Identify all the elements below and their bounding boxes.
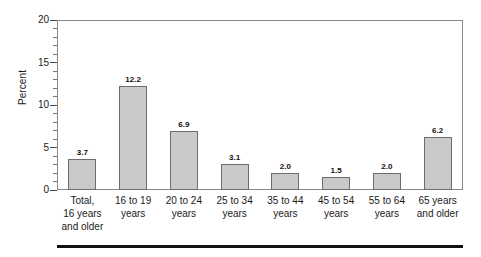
y-axis-tick-label: 0 (23, 185, 49, 195)
bar (322, 177, 350, 190)
x-axis-label-line: 20 to 24 (159, 194, 210, 207)
bar-group: 2.0 (362, 20, 413, 190)
x-axis-label-line: 35 to 44 (260, 194, 311, 207)
y-axis-tick-label: 20 (23, 15, 49, 25)
x-axis-label-line: and older (57, 220, 108, 233)
bar (221, 164, 249, 190)
y-axis-tick-label: 10 (23, 100, 49, 110)
y-axis-tick-major (50, 20, 57, 21)
x-axis-label-line: 16 years (57, 207, 108, 220)
y-axis-tick-label: 15 (23, 58, 49, 68)
y-axis-tick-major (50, 147, 57, 148)
bar-value-label: 6.9 (178, 120, 189, 129)
x-axis-category-label: 45 to 54years (311, 194, 362, 220)
x-axis-category-label: Total,16 yearsand older (57, 194, 108, 233)
bar (424, 137, 452, 190)
bar-group: 3.1 (209, 20, 260, 190)
x-axis-category-label: 20 to 24years (159, 194, 210, 220)
x-axis-label-line: Total, (57, 194, 108, 207)
bar (271, 173, 299, 190)
bar-group: 1.5 (311, 20, 362, 190)
x-axis-category-label: 16 to 19years (108, 194, 159, 220)
bar-group: 6.9 (159, 20, 210, 190)
x-axis-label-line: 45 to 54 (311, 194, 362, 207)
x-axis-label-line: 16 to 19 (108, 194, 159, 207)
bar-value-label: 3.1 (229, 153, 240, 162)
x-axis-label-line: years (159, 207, 210, 220)
x-axis-label-line: years (311, 207, 362, 220)
bar-value-label: 2.0 (381, 162, 392, 171)
x-axis-label-line: years (209, 207, 260, 220)
bar-group: 2.0 (260, 20, 311, 190)
y-axis-tick-major (50, 190, 57, 191)
bar (68, 159, 96, 190)
x-axis-category-label: 35 to 44years (260, 194, 311, 220)
bar-group: 12.2 (108, 20, 159, 190)
bar-value-label: 1.5 (331, 166, 342, 175)
bottom-rule (57, 245, 463, 248)
x-axis-category-label: 55 to 64years (362, 194, 413, 220)
x-axis-label-line: years (260, 207, 311, 220)
bar-value-label: 2.0 (280, 162, 291, 171)
x-axis-label-line: and older (412, 207, 463, 220)
bar-value-label: 3.7 (77, 148, 88, 157)
bar (119, 86, 147, 190)
bar-group: 6.2 (412, 20, 463, 190)
bar-value-label: 6.2 (432, 126, 443, 135)
bar (373, 173, 401, 190)
y-axis-tick-label: 5 (23, 143, 49, 153)
x-axis-labels: Total,16 yearsand older16 to 19years20 t… (57, 194, 463, 240)
bar-chart: Percent 05101520 3.712.26.93.12.01.52.06… (0, 0, 481, 257)
x-axis-label-line: years (362, 207, 413, 220)
x-axis-label-line: 25 to 34 (209, 194, 260, 207)
x-axis-label-line: 65 years (412, 194, 463, 207)
x-axis-category-label: 25 to 34years (209, 194, 260, 220)
y-axis-tick-major (50, 62, 57, 63)
bars-layer: 3.712.26.93.12.01.52.06.2 (57, 20, 463, 190)
y-axis-tick-major (50, 105, 57, 106)
bar (170, 131, 198, 190)
bar-value-label: 12.2 (125, 75, 141, 84)
bar-group: 3.7 (57, 20, 108, 190)
x-axis-category-label: 65 yearsand older (412, 194, 463, 220)
x-axis-label-line: 55 to 64 (362, 194, 413, 207)
x-axis-label-line: years (108, 207, 159, 220)
